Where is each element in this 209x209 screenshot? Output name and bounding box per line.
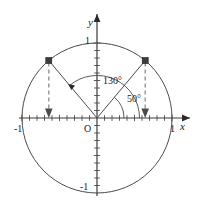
angle-arc-130-arrowhead	[68, 84, 75, 90]
y-axis-label: y	[88, 17, 93, 28]
point-marker-50	[142, 58, 148, 64]
x-tick-label-negative-one: -1	[14, 124, 22, 134]
y-axis-arrowhead	[94, 14, 101, 22]
point-marker-130	[46, 58, 52, 64]
y-tick-label-positive-one: 1	[85, 36, 90, 46]
x-axis-label: x	[180, 121, 185, 132]
angle-arc-50	[114, 97, 124, 118]
y-tick-label-negative-one: -1	[80, 182, 88, 192]
dashed-dropline-50-arrowhead	[141, 109, 149, 119]
dashed-dropline-130-arrowhead	[45, 109, 53, 119]
terminal-ray-130	[49, 61, 97, 119]
angle-label-130: 130°	[103, 76, 122, 86]
angle-label-50: 50°	[127, 94, 141, 104]
x-tick-label-positive-one: 1	[170, 124, 175, 134]
origin-label: O	[84, 124, 91, 134]
unit-circle-figure: y x 1 -1 -1 1 O 130° 50°	[0, 0, 209, 209]
terminal-ray-50	[97, 61, 145, 119]
unit-circle-svg	[0, 0, 209, 209]
